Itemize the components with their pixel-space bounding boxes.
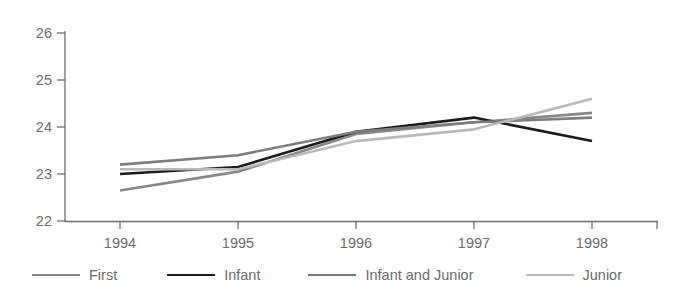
series-line-infant [120, 118, 592, 174]
y-tick-label-26: 26 [36, 25, 52, 41]
series-line-first [120, 113, 592, 191]
legend-swatch-infant-and-junior [308, 274, 356, 276]
y-axis: 26 25 24 23 22 [36, 25, 65, 229]
legend-label-infant: Infant [224, 268, 260, 283]
plot-svg: 26 25 24 23 22 1994 1995 1996 [0, 0, 682, 255]
legend-swatch-junior [526, 274, 574, 276]
line-chart: 26 25 24 23 22 1994 1995 1996 [0, 0, 682, 303]
legend-item-infant-and-junior[interactable]: Infant and Junior [308, 268, 473, 283]
series-group [120, 99, 592, 191]
legend-item-first[interactable]: First [32, 268, 117, 283]
legend-label-junior: Junior [583, 268, 623, 283]
legend-swatch-first [32, 274, 80, 276]
legend-label-infant-and-junior: Infant and Junior [365, 268, 473, 283]
x-tick-label-1996: 1996 [340, 235, 372, 251]
legend-label-first: First [89, 268, 117, 283]
legend-item-junior[interactable]: Junior [526, 268, 623, 283]
x-tick-label-1997: 1997 [458, 235, 490, 251]
y-tick-label-24: 24 [36, 119, 52, 135]
x-tick-label-1994: 1994 [104, 235, 136, 251]
x-tick-label-1995: 1995 [222, 235, 254, 251]
y-tick-label-25: 25 [36, 72, 52, 88]
x-axis: 1994 1995 1996 1997 1998 [65, 221, 658, 251]
legend-swatch-infant [167, 274, 215, 276]
y-tick-label-23: 23 [36, 166, 52, 182]
y-tick-marks [57, 33, 65, 221]
chart-legend: First Infant Infant and Junior Junior [0, 258, 682, 303]
x-tick-label-1998: 1998 [576, 235, 608, 251]
y-tick-label-22: 22 [36, 213, 52, 229]
x-tick-marks [120, 221, 657, 229]
legend-item-infant[interactable]: Infant [167, 268, 260, 283]
plot-area: 26 25 24 23 22 1994 1995 1996 [0, 0, 682, 255]
